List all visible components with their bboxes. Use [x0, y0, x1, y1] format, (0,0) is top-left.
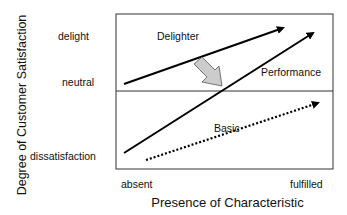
performance-label: Performance [261, 66, 321, 78]
transition-arrow-icon [194, 57, 222, 86]
basic-label: Basic [214, 122, 240, 134]
delighter-curve [124, 28, 283, 84]
delighter-label: Delighter [157, 30, 199, 42]
